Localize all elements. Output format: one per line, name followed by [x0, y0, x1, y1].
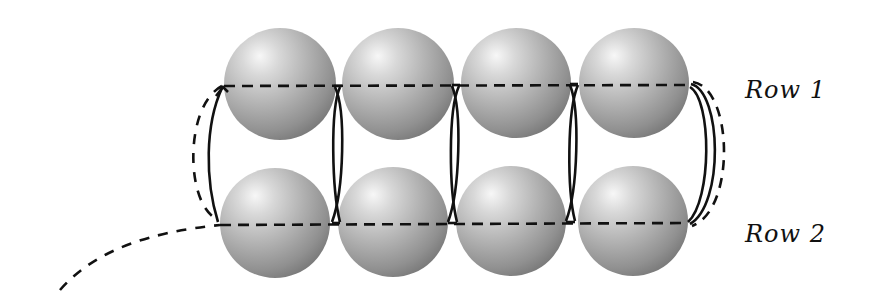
row-2-label: Row 2: [745, 220, 826, 248]
bead-pattern-diagram: Row 1 Row 2: [0, 0, 881, 308]
connector-1-2-b: [333, 87, 340, 222]
bead: [224, 28, 336, 140]
left-thread-solid: [209, 88, 222, 222]
bead: [342, 28, 454, 140]
bead: [579, 28, 689, 138]
bead: [461, 28, 571, 138]
diagram-canvas: [0, 0, 881, 308]
right-thread-solid-inner: [688, 87, 706, 222]
bead: [220, 168, 330, 278]
right-thread-solid-outer: [690, 84, 715, 224]
tail-thread-dashed: [60, 225, 220, 290]
row-1-label: Row 1: [745, 76, 826, 104]
bead: [578, 166, 688, 276]
bead: [456, 166, 566, 276]
bead: [338, 167, 448, 277]
